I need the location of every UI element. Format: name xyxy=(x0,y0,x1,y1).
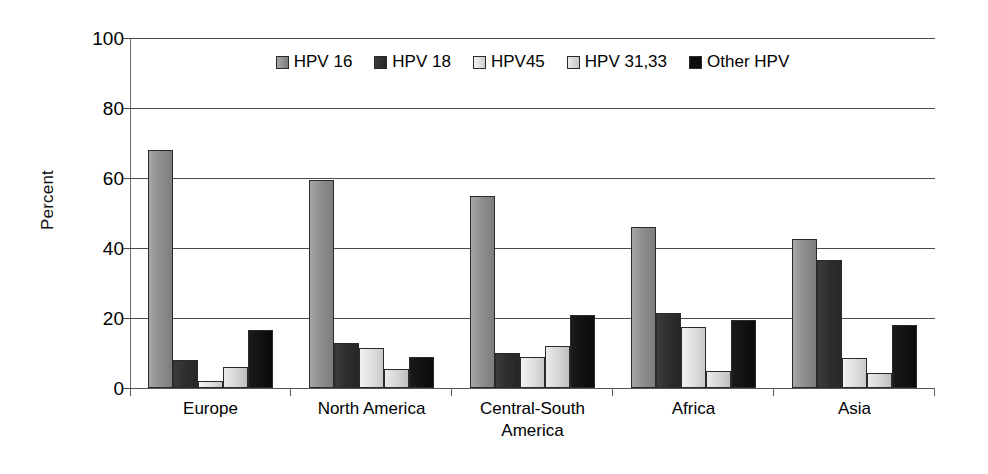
bar-group-bars xyxy=(613,38,774,388)
bar-group-bars xyxy=(291,38,452,388)
bar[interactable] xyxy=(359,348,384,388)
bar[interactable] xyxy=(892,325,917,388)
bar-group-bars xyxy=(774,38,935,388)
bar[interactable] xyxy=(223,367,248,388)
x-axis-category-label: Central-SouthAmerica xyxy=(452,398,613,468)
bar-group xyxy=(774,38,935,388)
y-axis-title: Percent xyxy=(38,140,58,260)
bar[interactable] xyxy=(248,330,273,388)
x-axis-category-labels: EuropeNorth AmericaCentral-SouthAmericaA… xyxy=(130,398,935,468)
bar-chart: Percent 020406080100 EuropeNorth America… xyxy=(0,0,988,474)
legend-item-label: Other HPV xyxy=(707,52,789,72)
bar-group-bars xyxy=(130,38,291,388)
bar[interactable] xyxy=(198,381,223,388)
bar[interactable] xyxy=(656,313,681,388)
bar[interactable] xyxy=(792,239,817,388)
bar[interactable] xyxy=(681,327,706,388)
legend-item[interactable]: HPV 31,33 xyxy=(567,52,667,72)
legend-item-label: HPV 18 xyxy=(392,52,451,72)
bar[interactable] xyxy=(545,346,570,388)
x-axis-category-label-line: Asia xyxy=(774,398,935,420)
bar-groups xyxy=(130,38,935,388)
bar[interactable] xyxy=(495,353,520,388)
bar[interactable] xyxy=(631,227,656,388)
x-axis-category-label-line: America xyxy=(452,420,613,442)
legend-item[interactable]: HPV 18 xyxy=(374,52,451,72)
y-axis-tick-mark xyxy=(123,38,130,39)
bar[interactable] xyxy=(148,150,173,388)
legend-item[interactable]: HPV45 xyxy=(473,52,545,72)
x-axis-category-label: Asia xyxy=(774,398,935,468)
bar[interactable] xyxy=(309,180,334,388)
x-axis-tick-mark xyxy=(290,388,291,396)
x-axis-tick-mark xyxy=(934,388,935,396)
x-axis-category-label-line: North America xyxy=(291,398,452,420)
bar[interactable] xyxy=(470,196,495,389)
x-axis-category-label-line: Europe xyxy=(130,398,291,420)
x-axis-tick-mark xyxy=(130,388,131,396)
bar[interactable] xyxy=(409,357,434,388)
y-axis-tick-label: 100 xyxy=(92,29,124,48)
y-axis-tick-label: 20 xyxy=(103,309,124,328)
y-axis-tick-mark xyxy=(123,108,130,109)
x-axis-category-label: North America xyxy=(291,398,452,468)
bar-group xyxy=(130,38,291,388)
legend-swatch-icon xyxy=(276,56,289,69)
y-axis-tick-labels: 020406080100 xyxy=(62,0,124,474)
bar[interactable] xyxy=(173,360,198,388)
legend-swatch-icon xyxy=(567,56,580,69)
legend-item-label: HPV45 xyxy=(491,52,545,72)
x-axis-category-label: Africa xyxy=(613,398,774,468)
legend-item-label: HPV 31,33 xyxy=(585,52,667,72)
bar[interactable] xyxy=(842,358,867,388)
y-axis-tick-mark xyxy=(123,388,130,389)
legend-swatch-icon xyxy=(473,56,486,69)
bar[interactable] xyxy=(384,369,409,388)
bar[interactable] xyxy=(867,373,892,388)
bar[interactable] xyxy=(520,357,545,389)
legend-item[interactable]: HPV 16 xyxy=(276,52,353,72)
x-axis-category-label-line: Africa xyxy=(613,398,774,420)
x-axis-category-label-line: Central-South xyxy=(452,398,613,420)
bar-group-bars xyxy=(452,38,613,388)
bar-group xyxy=(452,38,613,388)
x-axis-category-label: Europe xyxy=(130,398,291,468)
x-axis-tick-mark xyxy=(451,388,452,396)
bar[interactable] xyxy=(731,320,756,388)
x-axis-tick-mark xyxy=(612,388,613,396)
bar-group xyxy=(291,38,452,388)
y-axis-tick-label: 80 xyxy=(103,99,124,118)
y-axis-tick-mark xyxy=(123,248,130,249)
legend-swatch-icon xyxy=(689,56,702,69)
y-axis-tick-label: 60 xyxy=(103,169,124,188)
x-axis-line xyxy=(130,388,935,389)
bar[interactable] xyxy=(570,315,595,389)
legend-item-label: HPV 16 xyxy=(294,52,353,72)
y-axis-tick-mark xyxy=(123,178,130,179)
legend-swatch-icon xyxy=(374,56,387,69)
plot-area xyxy=(130,38,935,388)
y-axis-tick-label: 40 xyxy=(103,239,124,258)
y-axis-tick-mark xyxy=(123,318,130,319)
bar-group xyxy=(613,38,774,388)
legend-item[interactable]: Other HPV xyxy=(689,52,789,72)
bar[interactable] xyxy=(817,260,842,388)
chart-legend: HPV 16HPV 18HPV45HPV 31,33Other HPV xyxy=(130,52,935,72)
bar[interactable] xyxy=(706,371,731,389)
x-axis-tick-mark xyxy=(773,388,774,396)
bar[interactable] xyxy=(334,343,359,388)
